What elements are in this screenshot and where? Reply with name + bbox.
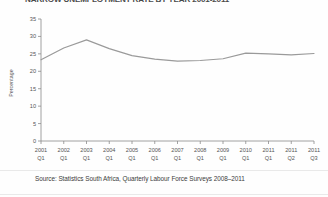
plot-area: Percentage 05101520253035 2001Q12002Q120… xyxy=(0,8,328,168)
x-tick-label-quarter: Q1 xyxy=(219,155,226,161)
x-tick-label-year: 2011 xyxy=(262,147,274,153)
x-tick-label-year: 2002 xyxy=(58,147,70,153)
x-axis-tick-labels: 2001Q12002Q12003Q12004Q12005Q12006Q12007… xyxy=(35,147,320,161)
x-tick-label-year: 2009 xyxy=(217,147,229,153)
y-tick-label: 35 xyxy=(30,16,36,22)
x-tick-label-year: 2001 xyxy=(35,147,47,153)
chart-figure: NARROW UNEMPLOYMENT RATE BY YEAR 2001-20… xyxy=(0,0,328,197)
scan-rule-top xyxy=(0,170,328,171)
chart-title-clip: NARROW UNEMPLOYMENT RATE BY YEAR 2001-20… xyxy=(0,0,328,7)
x-tick-label-quarter: Q1 xyxy=(242,155,249,161)
y-tick-label: 20 xyxy=(30,68,36,74)
x-tick-label-quarter: Q1 xyxy=(106,155,113,161)
x-tick-label-quarter: Q1 xyxy=(37,155,44,161)
y-axis-title: Percentage xyxy=(8,60,14,106)
y-tick-label: 0 xyxy=(33,138,36,144)
x-tick-label-quarter: Q1 xyxy=(265,155,272,161)
x-tick-label-quarter: Q1 xyxy=(83,155,90,161)
x-tick-label-quarter: Q1 xyxy=(151,155,158,161)
x-tick-label-year: 2008 xyxy=(194,147,206,153)
y-tick-label: 30 xyxy=(30,33,36,39)
y-tick-label: 15 xyxy=(30,86,36,92)
scan-rule-bottom xyxy=(0,194,328,195)
source-caption: Source: Statistics South Africa, Quarter… xyxy=(35,175,245,182)
x-tick-label-quarter: Q1 xyxy=(197,155,204,161)
x-tick-label-year: 2004 xyxy=(103,147,115,153)
x-tick-label-quarter: Q3 xyxy=(310,155,317,161)
x-tick-label-quarter: Q1 xyxy=(60,155,67,161)
x-tick-label-year: 2003 xyxy=(80,147,92,153)
y-tick-label: 25 xyxy=(30,51,36,57)
chart-svg: 05101520253035 2001Q12002Q12003Q12004Q12… xyxy=(0,8,328,168)
data-series-line xyxy=(41,40,314,61)
x-tick-label-year: 2006 xyxy=(149,147,161,153)
x-tick-label-year: 2011 xyxy=(308,147,320,153)
x-tick-label-year: 2011 xyxy=(285,147,297,153)
y-axis-ticks: 05101520253035 xyxy=(30,16,41,144)
x-tick-label-quarter: Q1 xyxy=(128,155,135,161)
chart-title: NARROW UNEMPLOYMENT RATE BY YEAR 2001-20… xyxy=(25,0,325,5)
x-tick-label-year: 2005 xyxy=(126,147,138,153)
y-tick-label: 10 xyxy=(30,103,36,109)
source-row: Source: Statistics South Africa, Quarter… xyxy=(0,175,328,189)
y-tick-label: 5 xyxy=(33,121,36,127)
x-tick-label-year: 2007 xyxy=(171,147,183,153)
x-tick-label-quarter: Q2 xyxy=(288,155,295,161)
x-axis-ticks xyxy=(41,141,314,144)
x-tick-label-year: 2010 xyxy=(240,147,252,153)
x-tick-label-quarter: Q1 xyxy=(174,155,181,161)
